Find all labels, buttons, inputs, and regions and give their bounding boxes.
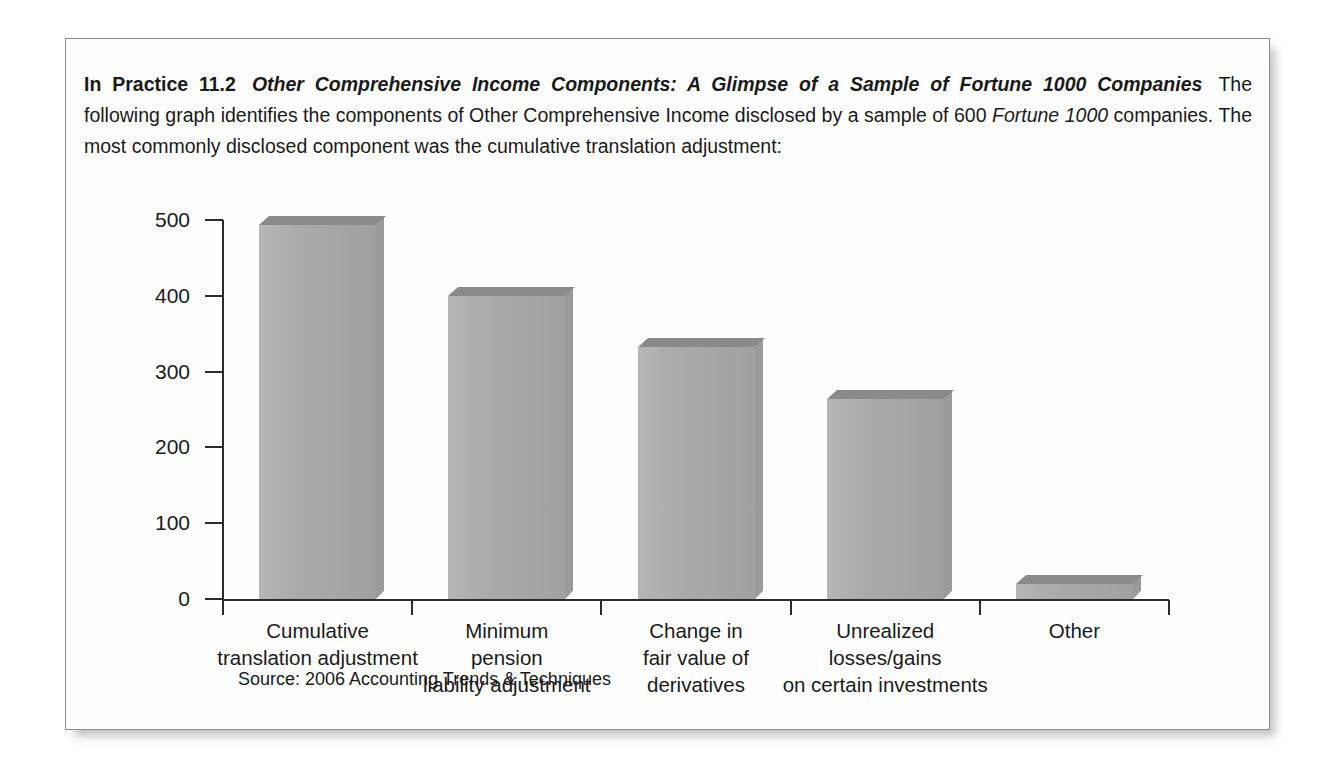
- bar-top-face: [638, 338, 765, 347]
- bar-top-face: [448, 287, 575, 296]
- plot-area: 0100200300400500 Cumulativetranslation a…: [66, 159, 1271, 629]
- bar-side-face: [944, 391, 952, 599]
- category-label-line: losses/gains: [756, 644, 1015, 671]
- bar-front-face: [448, 296, 565, 599]
- bars-layer: [66, 159, 1271, 599]
- bar-side-face: [565, 288, 573, 599]
- bar: [259, 225, 376, 599]
- in-practice-box: In Practice 11.2Other Comprehensive Inco…: [65, 38, 1270, 730]
- bar-front-face: [638, 347, 755, 599]
- x-axis-tick: [979, 600, 981, 615]
- intro-label: In Practice 11.2: [84, 73, 236, 95]
- bar-front-face: [259, 225, 376, 599]
- bar: [448, 296, 565, 599]
- x-axis-tick: [600, 600, 602, 615]
- category-label: Other: [945, 617, 1204, 644]
- intro-title: Other Comprehensive Income Components: A…: [252, 73, 1203, 95]
- bar-top-face: [259, 216, 386, 225]
- bar-top-face: [1016, 575, 1143, 584]
- bar-chart: 0100200300400500 Cumulativetranslation a…: [66, 159, 1271, 659]
- bar: [1016, 584, 1133, 599]
- x-axis-tick: [1168, 600, 1170, 615]
- x-axis-line: [223, 599, 1169, 601]
- x-axis-tick: [790, 600, 792, 615]
- category-label-line: on certain investments: [756, 671, 1015, 698]
- x-axis-tick: [222, 600, 224, 615]
- bar-front-face: [1016, 584, 1133, 599]
- source-note: Source: 2006 Accounting Trends & Techniq…: [238, 669, 611, 690]
- bar: [638, 347, 755, 599]
- bar-front-face: [827, 399, 944, 599]
- bar-top-face: [827, 390, 954, 399]
- x-axis-tick: [411, 600, 413, 615]
- bar-side-face: [755, 339, 763, 599]
- bar: [827, 399, 944, 599]
- intro-body-italic: Fortune 1000: [992, 104, 1108, 126]
- bar-side-face: [376, 217, 384, 599]
- intro-paragraph: In Practice 11.2Other Comprehensive Inco…: [84, 69, 1252, 162]
- category-label-line: Other: [945, 617, 1204, 644]
